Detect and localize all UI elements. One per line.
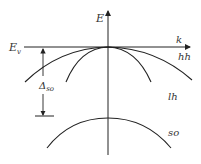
lh-band-label: lh (168, 91, 178, 102)
splitting-label: Δso (38, 80, 54, 93)
so-band-label: so (168, 127, 179, 138)
so-band-curve (47, 118, 171, 148)
k-axis-label: k (176, 34, 182, 45)
band-diagram: E k Ev hh lh so Δso (0, 0, 201, 164)
hh-band-label: hh (178, 51, 191, 62)
ev-label: Ev (8, 41, 21, 56)
energy-axis-label: E (95, 12, 104, 25)
